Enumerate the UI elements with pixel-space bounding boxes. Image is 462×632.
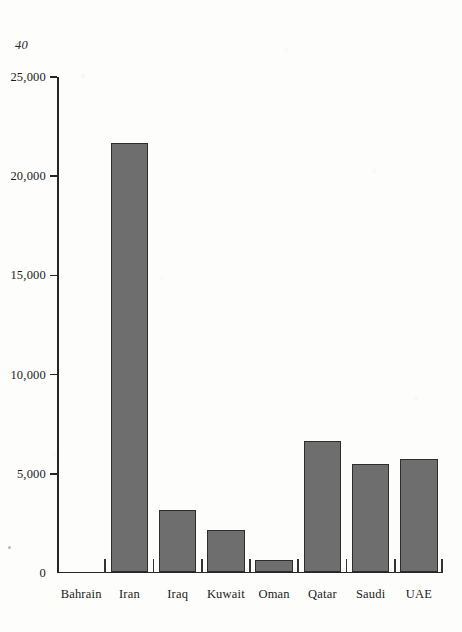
y-axis-label: 0 (40, 566, 46, 581)
x-axis-tick (201, 559, 203, 573)
x-axis-label-kuwait: Kuwait (207, 587, 245, 602)
x-axis-label-uae: UAE (406, 587, 432, 602)
x-axis-label-saudi: Saudi (356, 587, 385, 602)
y-axis-label: 25,000 (10, 70, 46, 85)
x-axis-tick (104, 559, 106, 573)
y-axis-line (57, 77, 59, 573)
bar-oman (255, 560, 293, 572)
x-axis-label-iran: Iran (119, 587, 140, 602)
y-axis-tick (50, 175, 57, 177)
y-axis-tick (50, 76, 57, 78)
x-axis-tick (153, 559, 155, 573)
y-axis-label: 20,000 (10, 169, 46, 184)
bar-saudi (352, 464, 390, 571)
y-axis-tick (50, 374, 57, 376)
x-axis-tick (249, 559, 251, 573)
bar-iraq (159, 510, 197, 572)
x-axis-tick (297, 559, 299, 573)
y-axis-label: 15,000 (10, 268, 46, 283)
x-axis-tick (441, 559, 443, 573)
x-axis-label-bahrain: Bahrain (61, 587, 102, 602)
y-axis-label: 5,000 (17, 466, 46, 481)
x-axis-tick (394, 559, 396, 573)
bar-qatar (304, 441, 342, 572)
x-axis-label-iraq: Iraq (167, 587, 188, 602)
bar-iran (111, 143, 149, 572)
bar-kuwait (207, 530, 245, 572)
y-axis-label: 10,000 (10, 367, 46, 382)
plot-area: 05,00010,00015,00020,00025,000BahrainIra… (57, 77, 443, 573)
bar-uae (400, 459, 438, 571)
y-axis-tick (50, 275, 57, 277)
x-axis-tick (346, 559, 348, 573)
x-axis-label-oman: Oman (258, 587, 289, 602)
x-axis-label-qatar: Qatar (308, 587, 337, 602)
bar-chart: 05,00010,00015,00020,00025,000BahrainIra… (0, 0, 462, 632)
y-axis-tick (50, 473, 57, 475)
